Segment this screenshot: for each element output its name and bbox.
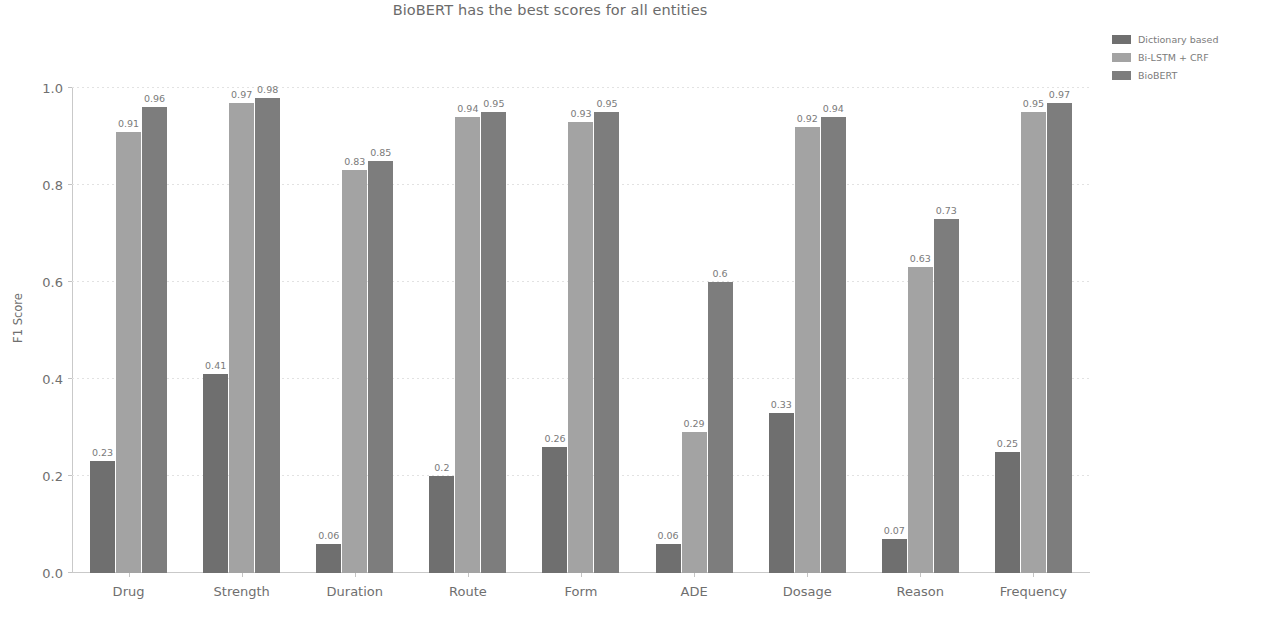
x-tick-label: Dosage	[783, 584, 832, 599]
x-tick-mark	[1033, 573, 1034, 577]
x-tick-mark	[242, 573, 243, 577]
bar-value-label: 0.23	[92, 447, 113, 458]
legend-label: BioBERT	[1138, 70, 1177, 81]
bar: 0.91	[116, 132, 141, 573]
bar-group: 0.060.830.85Duration	[298, 88, 411, 573]
legend-item[interactable]: Dictionary based	[1112, 31, 1218, 47]
bar: 0.96	[142, 107, 167, 573]
bar: 0.06	[316, 544, 341, 573]
chart-title: BioBERT has the best scores for all enti…	[0, 2, 1100, 18]
bar-value-label: 0.94	[823, 103, 844, 114]
x-tick-mark	[468, 573, 469, 577]
bar-value-label: 0.73	[936, 205, 957, 216]
bar-group: 0.330.920.94Dosage	[751, 88, 864, 573]
x-tick-label: Drug	[113, 584, 145, 599]
bar: 0.73	[934, 219, 959, 573]
bar-chart: BioBERT has the best scores for all enti…	[0, 0, 1265, 635]
bar-value-label: 0.29	[684, 418, 705, 429]
bar-value-label: 0.95	[596, 98, 617, 109]
bar-value-label: 0.6	[713, 268, 728, 279]
x-tick-label: Duration	[327, 584, 383, 599]
bar-group: 0.060.290.6ADE	[638, 88, 751, 573]
y-tick-label: 0.4	[42, 372, 63, 387]
bar-value-label: 0.97	[231, 89, 252, 100]
legend-label: Bi-LSTM + CRF	[1138, 52, 1209, 63]
bar-value-label: 0.85	[370, 147, 391, 158]
x-tick-label: ADE	[681, 584, 708, 599]
bar: 0.33	[769, 413, 794, 573]
x-tick-label: Form	[565, 584, 598, 599]
legend-swatch-icon	[1112, 35, 1131, 44]
bar: 0.92	[795, 127, 820, 573]
x-tick-label: Reason	[897, 584, 944, 599]
bar-value-label: 0.93	[570, 108, 591, 119]
bar-value-label: 0.92	[797, 113, 818, 124]
bar: 0.85	[368, 161, 393, 573]
bar-group: 0.070.630.73Reason	[864, 88, 977, 573]
bar-value-label: 0.91	[118, 118, 139, 129]
bar-value-label: 0.33	[771, 399, 792, 410]
plot-area: 0.00.20.40.60.81.0 0.230.910.96Drug0.410…	[72, 88, 1090, 573]
bar-value-label: 0.83	[344, 156, 365, 167]
x-tick-label: Strength	[214, 584, 270, 599]
y-tick-label: 0.6	[42, 275, 63, 290]
bar-value-label: 0.95	[1023, 98, 1044, 109]
bar: 0.26	[542, 447, 567, 573]
bar-group: 0.250.950.97Frequency	[977, 88, 1090, 573]
bar: 0.98	[255, 98, 280, 573]
bar-value-label: 0.95	[483, 98, 504, 109]
bar: 0.97	[229, 103, 254, 573]
bar-group: 0.230.910.96Drug	[72, 88, 185, 573]
bar: 0.97	[1047, 103, 1072, 573]
bar: 0.07	[882, 539, 907, 573]
bar-value-label: 0.98	[257, 84, 278, 95]
legend-item[interactable]: BioBERT	[1112, 67, 1218, 83]
y-tick-label: 0.0	[42, 566, 63, 581]
bar: 0.94	[455, 117, 480, 573]
bar-value-label: 0.41	[205, 360, 226, 371]
y-tick-label: 0.8	[42, 178, 63, 193]
bar-group: 0.20.940.95Route	[411, 88, 524, 573]
bar: 0.93	[568, 122, 593, 573]
bar: 0.06	[656, 544, 681, 573]
bar-value-label: 0.96	[144, 93, 165, 104]
bar: 0.95	[594, 112, 619, 573]
legend-label: Dictionary based	[1138, 34, 1218, 45]
x-tick-mark	[581, 573, 582, 577]
x-tick-label: Route	[449, 584, 487, 599]
bar: 0.95	[481, 112, 506, 573]
bar: 0.63	[908, 267, 933, 573]
x-tick-mark	[694, 573, 695, 577]
bar-value-label: 0.07	[884, 525, 905, 536]
chart-legend: Dictionary basedBi-LSTM + CRFBioBERT	[1112, 31, 1218, 85]
bar-group: 0.410.970.98Strength	[185, 88, 298, 573]
legend-item[interactable]: Bi-LSTM + CRF	[1112, 49, 1218, 65]
legend-swatch-icon	[1112, 53, 1131, 62]
bar-value-label: 0.06	[318, 530, 339, 541]
bar: 0.23	[90, 461, 115, 573]
bar: 0.6	[708, 282, 733, 573]
bar-value-label: 0.94	[457, 103, 478, 114]
bar-value-label: 0.26	[544, 433, 565, 444]
bar-value-label: 0.25	[997, 438, 1018, 449]
bar-value-label: 0.63	[910, 253, 931, 264]
bar: 0.41	[203, 374, 228, 573]
y-axis-label: F1 Score	[11, 293, 25, 343]
x-tick-mark	[807, 573, 808, 577]
x-tick-mark	[355, 573, 356, 577]
bar-value-label: 0.97	[1049, 89, 1070, 100]
bar: 0.95	[1021, 112, 1046, 573]
legend-swatch-icon	[1112, 71, 1131, 80]
bar: 0.2	[429, 476, 454, 573]
bar-group: 0.260.930.95Form	[524, 88, 637, 573]
bar: 0.83	[342, 170, 367, 573]
y-tick-label: 0.2	[42, 469, 63, 484]
bar: 0.25	[995, 452, 1020, 573]
bar: 0.94	[821, 117, 846, 573]
x-tick-mark	[129, 573, 130, 577]
x-tick-mark	[920, 573, 921, 577]
y-tick-label: 1.0	[42, 81, 63, 96]
bar-value-label: 0.2	[434, 462, 449, 473]
bar-value-label: 0.06	[658, 530, 679, 541]
bar: 0.29	[682, 432, 707, 573]
